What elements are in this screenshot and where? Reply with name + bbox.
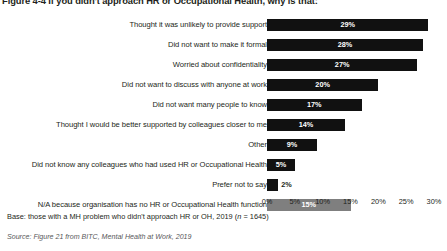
x-axis-tick-label: 30%	[427, 197, 442, 206]
x-axis-tick-label: 15%	[343, 197, 358, 206]
x-axis-tick-label: 10%	[315, 197, 330, 206]
bar-category-label: Other	[248, 135, 267, 155]
bar-value-label: 17%	[267, 99, 362, 111]
bar-wrapper: 2%	[267, 179, 278, 191]
bar-value-label: 2%	[281, 179, 292, 191]
bar-category-label: Worried about confidentiality	[173, 55, 267, 75]
bar-row: Did not want to make it formal28%	[0, 35, 447, 55]
bar-value-label: 29%	[267, 19, 428, 31]
bar-value-label: 27%	[267, 59, 417, 71]
bar-row: Worried about confidentiality27%	[0, 55, 447, 75]
bar-wrapper: 29%	[267, 19, 428, 31]
bar-value-label: 28%	[267, 39, 423, 51]
bar-category-label: Thought it was unlikely to provide suppo…	[129, 15, 267, 35]
bar	[267, 179, 278, 191]
bar-category-label: Did not want many people to know	[153, 95, 267, 115]
x-axis: 0%5%10%15%20%25%30%	[0, 197, 447, 209]
bar-wrapper: 9%	[267, 139, 317, 151]
bar-wrapper: 27%	[267, 59, 417, 71]
x-axis-tick-label: 25%	[399, 197, 414, 206]
bar-row: Did not know any colleagues who had used…	[0, 155, 447, 175]
bar-value-label: 14%	[267, 119, 345, 131]
bar-row: Did not want many people to know17%	[0, 95, 447, 115]
x-axis-tick-label: 20%	[371, 197, 386, 206]
bar-category-label: Thought I would be better supported by c…	[56, 115, 267, 135]
bar-value-label: 5%	[267, 159, 295, 171]
bar-category-label: Did not want to make it formal	[168, 35, 267, 55]
figure-container: Figure 4-4 If you didn't approach HR or …	[0, 0, 447, 251]
bar-row: Did not want to discuss with anyone at w…	[0, 75, 447, 95]
bar-value-label: 9%	[267, 139, 317, 151]
source-note: Source: Figure 21 from BITC, Mental Heal…	[7, 233, 192, 241]
bar-row: Prefer not to say2%	[0, 175, 447, 195]
figure-title: Figure 4-4 If you didn't approach HR or …	[2, 0, 445, 6]
bar-wrapper: 14%	[267, 119, 345, 131]
bar-row: Thought it was unlikely to provide suppo…	[0, 15, 447, 35]
x-axis-tick-label: 5%	[289, 197, 300, 206]
base-note: Base: those with a MH problem who didn't…	[7, 212, 269, 221]
bar-row: Other9%	[0, 135, 447, 155]
x-axis-tick-label: 0%	[262, 197, 273, 206]
bar-wrapper: 20%	[267, 79, 378, 91]
bar-category-label: Did not want to discuss with anyone at w…	[122, 75, 267, 95]
bar-category-label: Prefer not to say	[212, 175, 267, 195]
bar-category-label: Did not know any colleagues who had used…	[32, 155, 267, 175]
bar-wrapper: 17%	[267, 99, 362, 111]
plot-area: Thought it was unlikely to provide suppo…	[0, 15, 447, 197]
bar-row: Thought I would be better supported by c…	[0, 115, 447, 135]
bar-wrapper: 5%	[267, 159, 295, 171]
bar-value-label: 20%	[267, 79, 378, 91]
bar-wrapper: 28%	[267, 39, 423, 51]
